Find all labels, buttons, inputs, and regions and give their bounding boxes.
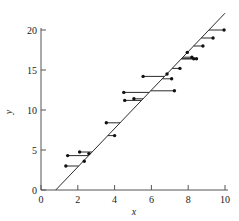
data-point	[64, 164, 67, 167]
chart-figure: 05101520 0246810 y x	[0, 0, 239, 221]
x-axis-tick-labels: 0246810	[39, 194, 231, 205]
x-axis-title: x	[131, 206, 137, 217]
residual-stems	[66, 30, 224, 166]
x-axis-ticks	[41, 185, 225, 190]
data-point	[78, 150, 81, 153]
y-axis-ticks	[41, 30, 46, 190]
data-point	[132, 97, 135, 100]
data-point	[66, 154, 69, 157]
data-point	[123, 99, 126, 102]
y-axis-tick-labels: 05101520	[27, 25, 37, 196]
data-point-group	[64, 28, 226, 167]
data-point	[195, 57, 198, 60]
data-point	[87, 152, 90, 155]
y-tick-label: 10	[27, 105, 37, 116]
x-tick-label: 6	[149, 194, 154, 205]
y-tick-label: 15	[27, 65, 37, 76]
fitted-regression-line	[56, 13, 225, 190]
scatter-plot-svg: 05101520 0246810 y x	[0, 0, 239, 221]
data-point	[141, 75, 144, 78]
data-point	[170, 77, 173, 80]
x-tick-label: 10	[220, 194, 230, 205]
data-point	[122, 91, 125, 94]
data-point	[105, 121, 108, 124]
y-tick-label: 0	[32, 185, 37, 196]
data-point	[113, 134, 116, 137]
y-tick-label: 20	[27, 25, 37, 36]
data-point	[178, 67, 181, 70]
data-point	[211, 36, 214, 39]
x-tick-label: 0	[39, 194, 44, 205]
data-point	[186, 51, 189, 54]
data-point	[173, 89, 176, 92]
data-point	[165, 72, 168, 75]
x-tick-label: 8	[186, 194, 191, 205]
y-tick-label: 5	[32, 145, 37, 156]
y-axis-title: y	[3, 109, 14, 115]
data-point	[222, 28, 225, 31]
x-tick-label: 2	[75, 194, 80, 205]
x-tick-label: 4	[112, 194, 117, 205]
data-point	[201, 44, 204, 47]
data-point	[83, 160, 86, 163]
